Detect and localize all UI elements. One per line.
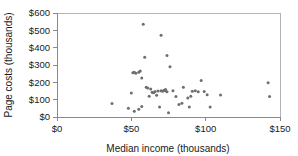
y-tick-label: $500 bbox=[29, 25, 50, 36]
data-point bbox=[189, 95, 192, 98]
data-points-layer bbox=[111, 23, 272, 114]
data-point bbox=[140, 77, 143, 80]
data-point bbox=[180, 102, 183, 105]
scatter-chart: $0$100$200$300$400$500$600 $0$50$100$150… bbox=[0, 0, 298, 156]
data-point bbox=[174, 95, 177, 98]
data-point bbox=[203, 90, 206, 93]
data-point bbox=[167, 111, 170, 114]
y-tick-label: $100 bbox=[29, 94, 50, 105]
data-point bbox=[140, 105, 143, 108]
y-tick-label: $300 bbox=[29, 59, 50, 70]
data-point bbox=[127, 107, 130, 110]
data-point bbox=[219, 93, 222, 96]
data-point bbox=[154, 90, 157, 93]
data-point bbox=[134, 72, 137, 75]
data-point bbox=[158, 105, 161, 108]
data-point bbox=[186, 96, 189, 99]
y-tick-label: $0 bbox=[39, 111, 50, 122]
data-point bbox=[267, 81, 270, 84]
data-point bbox=[139, 70, 142, 73]
x-tick-label: $150 bbox=[269, 123, 290, 134]
data-point bbox=[168, 65, 171, 68]
data-point bbox=[142, 23, 145, 26]
data-point bbox=[171, 89, 174, 92]
x-axis-title: Median income (thousands) bbox=[106, 143, 229, 154]
y-tick-label: $400 bbox=[29, 42, 50, 53]
plot-frame bbox=[57, 13, 280, 117]
data-point bbox=[143, 56, 146, 59]
data-point bbox=[268, 95, 271, 98]
data-point bbox=[166, 54, 169, 57]
data-point bbox=[133, 110, 136, 113]
data-point bbox=[194, 89, 197, 92]
y-tick-label: $600 bbox=[29, 7, 50, 18]
data-point bbox=[137, 108, 140, 111]
data-point bbox=[177, 103, 180, 106]
data-point bbox=[155, 94, 158, 97]
data-point bbox=[157, 90, 160, 93]
data-point bbox=[149, 87, 152, 90]
data-point bbox=[197, 90, 200, 93]
y-axis-ticks: $0$100$200$300$400$500$600 bbox=[29, 7, 57, 122]
data-point bbox=[166, 90, 169, 93]
x-axis-ticks: $0$50$100$150 bbox=[52, 117, 291, 134]
x-tick-label: $50 bbox=[123, 123, 139, 134]
data-point bbox=[130, 92, 133, 95]
data-point bbox=[111, 102, 114, 105]
y-axis-title: Page costs (thousands) bbox=[3, 12, 14, 117]
data-point bbox=[206, 93, 209, 96]
x-tick-label: $0 bbox=[52, 123, 63, 134]
y-tick-label: $200 bbox=[29, 77, 50, 88]
data-point bbox=[182, 86, 185, 89]
data-point bbox=[188, 106, 191, 109]
data-point bbox=[160, 34, 163, 37]
chart-canvas: $0$100$200$300$400$500$600 $0$50$100$150… bbox=[0, 0, 298, 156]
data-point bbox=[191, 90, 194, 93]
data-point bbox=[200, 79, 203, 82]
data-point bbox=[209, 105, 212, 108]
data-point bbox=[148, 95, 151, 98]
x-tick-label: $100 bbox=[195, 123, 216, 134]
data-point bbox=[146, 86, 149, 89]
